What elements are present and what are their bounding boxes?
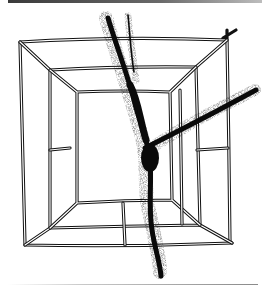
- bottom-divider-rule: [8, 284, 258, 285]
- wireframe-box: [20, 30, 236, 246]
- branch-in-frame-illustration: [0, 0, 270, 289]
